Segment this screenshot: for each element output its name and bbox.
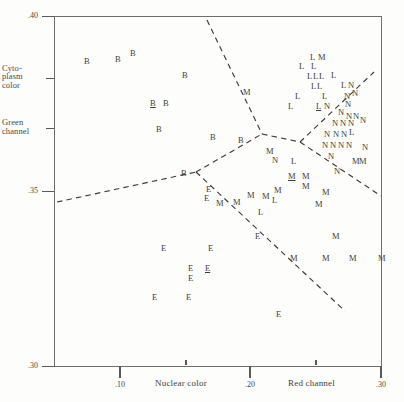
data-point-m: M [274, 186, 282, 195]
data-point-e: E [255, 232, 260, 241]
data-point-m: M [332, 232, 340, 241]
data-point-l: L [311, 82, 316, 91]
data-point-l: L [317, 82, 322, 91]
data-point-n: N [360, 116, 366, 125]
data-point-b: B [130, 49, 136, 58]
data-point-m: M [318, 53, 326, 62]
data-point-l: L [295, 92, 300, 101]
data-point-m: M [302, 172, 310, 181]
data-point-l: L [299, 62, 304, 71]
data-point-l: L [272, 196, 277, 205]
x-axis-title: Red channel [288, 378, 335, 388]
data-point-m: M [243, 88, 251, 97]
figure-canvas: .40.35.30Cyto- plasm colorGreen channel … [0, 0, 404, 402]
data-point-b: B [115, 55, 121, 64]
data-point-m: M [262, 192, 270, 201]
data-point-b: B [238, 136, 244, 145]
data-point-b: B [210, 133, 216, 142]
data-point-n: N [352, 89, 358, 98]
data-point-m: M [322, 254, 330, 263]
data-point-e: E [188, 274, 193, 283]
data-point-n: N [346, 141, 352, 150]
data-point-l: L [319, 72, 324, 81]
data-point-b: B [156, 125, 162, 134]
data-point-m: M [247, 191, 255, 200]
x-tick-mark [119, 366, 120, 378]
y-axis-title: Cyto- plasm color [2, 64, 42, 90]
data-point-m: M [302, 182, 310, 191]
data-point-m: M [216, 199, 224, 208]
x-tick-mark [380, 366, 381, 378]
data-point-n: N [334, 167, 340, 176]
data-point-e: E [161, 244, 166, 253]
data-point-n: N [332, 119, 338, 128]
decision-boundaries [0, 0, 404, 402]
data-point-n: N [338, 108, 344, 117]
data-point-l: L [341, 81, 346, 90]
data-point-m: M [359, 157, 367, 166]
data-point-l: L [331, 71, 336, 80]
data-point-e: E [188, 264, 193, 273]
data-point-l: L [288, 102, 293, 111]
y-tick-mark [42, 366, 54, 367]
data-point-n: N [330, 141, 336, 150]
boundary-left-horizontal-separator [57, 172, 196, 202]
data-point-m: M [233, 198, 241, 207]
data-point-l: L [311, 62, 316, 71]
data-point-l: L [322, 92, 327, 101]
data-point-m: M [378, 254, 386, 263]
data-point-n: N [340, 119, 346, 128]
data-point-e: E [276, 310, 281, 319]
x-axis-line [54, 366, 382, 367]
data-point-n: N [333, 130, 339, 139]
plot-right-border [381, 16, 382, 366]
y-named-tick-mark [46, 78, 54, 79]
y-tick-label: .35 [12, 186, 38, 195]
boundary-upper-left-separator [207, 20, 262, 134]
data-point-n: N [322, 141, 328, 150]
data-point-l: L [313, 72, 318, 81]
x-tick-label: .30 [369, 380, 393, 389]
data-point-b: B [182, 71, 188, 80]
data-point-l: L [307, 72, 312, 81]
data-point-n: N [324, 102, 330, 111]
data-point-b: B [84, 57, 90, 66]
data-point-e: E [186, 293, 191, 302]
x-minor-tick-mark [185, 360, 186, 365]
data-point-n: N [362, 143, 368, 152]
boundary-mid-link [262, 134, 300, 142]
x-minor-tick-mark [315, 360, 316, 365]
data-point-n: N [338, 141, 344, 150]
boundary-junction-link [196, 134, 262, 172]
data-point-n: N [328, 152, 334, 161]
y-axis-title: Green channel [2, 118, 42, 135]
data-point-b: B [181, 169, 187, 178]
data-point-l: L [349, 128, 354, 137]
data-point-m: M [322, 188, 330, 197]
y-axis-line [54, 16, 55, 366]
data-point-m: M [315, 200, 323, 209]
data-point-n: N [324, 130, 330, 139]
data-point-b: B [150, 99, 156, 108]
data-point-e: E [205, 264, 210, 273]
y-tick-label: .30 [12, 361, 38, 370]
y-named-tick-mark [46, 128, 54, 129]
data-point-l: L [291, 157, 296, 166]
data-point-n: N [341, 130, 347, 139]
data-point-e: E [204, 194, 209, 203]
data-point-e: E [208, 244, 213, 253]
data-point-e: E [152, 293, 157, 302]
x-tick-mark [249, 366, 250, 378]
x-tick-label: .20 [238, 380, 262, 389]
data-point-n: N [345, 100, 351, 109]
data-point-l: L [258, 208, 263, 217]
data-point-m: M [290, 254, 298, 263]
y-tick-label: .40 [12, 11, 38, 20]
data-point-n: N [272, 156, 278, 165]
x-axis-title: Nuclear color [155, 378, 207, 388]
x-tick-label: .10 [108, 380, 132, 389]
plot-top-border [54, 16, 382, 17]
data-point-l: L [316, 102, 321, 111]
data-point-b: B [163, 99, 169, 108]
data-point-m: M [288, 172, 296, 181]
